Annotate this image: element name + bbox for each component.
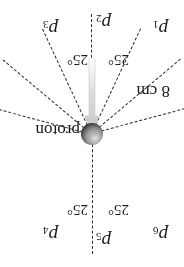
angle-label-top-left: 25° — [108, 202, 129, 217]
angle-label-bottom-left: 25° — [108, 52, 129, 67]
label-p6: p6 — [153, 225, 168, 245]
label-p1: p1 — [153, 19, 168, 39]
diagram-canvas: p1 p2 p3 p4 p5 p6 25° 25° 25° 25° proton… — [0, 0, 184, 267]
label-p3: p3 — [43, 19, 58, 39]
diagram-figure: p1 p2 p3 p4 p5 p6 25° 25° 25° 25° proton… — [0, 0, 184, 267]
dashed-axis-upper — [92, 134, 93, 254]
dashed-ray-p6 — [92, 103, 184, 134]
label-p2: p2 — [96, 13, 111, 33]
proton-label: proton — [36, 122, 80, 139]
label-p4: p4 — [43, 225, 58, 245]
angle-label-top-right: 25° — [67, 202, 88, 217]
distance-label: 8 cm — [136, 83, 170, 100]
label-p5: p5 — [96, 231, 111, 251]
proton-sphere — [81, 123, 103, 145]
angle-label-bottom-right: 25° — [67, 52, 88, 67]
